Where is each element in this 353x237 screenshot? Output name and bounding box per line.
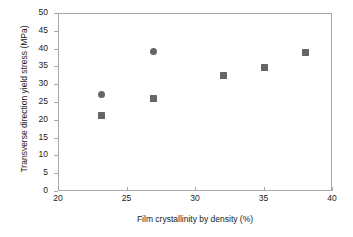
y-tick-label: 20 (39, 114, 48, 124)
y-tick-mark (54, 138, 58, 139)
data-point-circle (150, 48, 157, 55)
data-point-square (220, 72, 227, 79)
y-tick-label: 15 (39, 132, 48, 142)
data-point-square (98, 112, 105, 119)
y-tick-mark (54, 49, 58, 50)
y-tick-label: 45 (39, 25, 48, 35)
y-tick-mark (54, 102, 58, 103)
y-tick-mark (54, 13, 58, 14)
x-tick-mark (127, 187, 128, 191)
y-tick-mark (54, 84, 58, 85)
data-point-square (302, 49, 309, 56)
y-tick-mark (54, 66, 58, 67)
y-tick-label: 10 (39, 149, 48, 159)
y-tick-mark (54, 155, 58, 156)
data-point-circle (98, 91, 105, 98)
x-axis-title: Film crystallinity by density (%) (58, 214, 332, 224)
x-tick-label: 20 (44, 193, 72, 203)
y-tick-label: 40 (39, 43, 48, 53)
x-tick-label: 25 (113, 193, 141, 203)
x-tick-mark (58, 187, 59, 191)
x-tick-mark (264, 187, 265, 191)
plot-area (58, 13, 332, 191)
y-tick-label: 30 (39, 78, 48, 88)
scatter-chart-figure: Transverse direction yield stress (MPa) … (0, 0, 353, 237)
y-tick-label: 25 (39, 96, 48, 106)
x-tick-label: 40 (318, 193, 346, 203)
y-tick-label: 35 (39, 60, 48, 70)
y-tick-mark (54, 191, 58, 192)
y-tick-mark (54, 31, 58, 32)
data-point-square (261, 64, 268, 71)
y-tick-mark (54, 120, 58, 121)
data-point-square (150, 95, 157, 102)
y-axis-title: Transverse direction yield stress (MPa) (16, 0, 32, 199)
x-tick-label: 30 (181, 193, 209, 203)
y-tick-label: 50 (39, 7, 48, 17)
x-tick-mark (332, 187, 333, 191)
x-tick-mark (195, 187, 196, 191)
y-tick-mark (54, 173, 58, 174)
y-tick-label: 5 (43, 167, 48, 177)
x-tick-label: 35 (250, 193, 278, 203)
